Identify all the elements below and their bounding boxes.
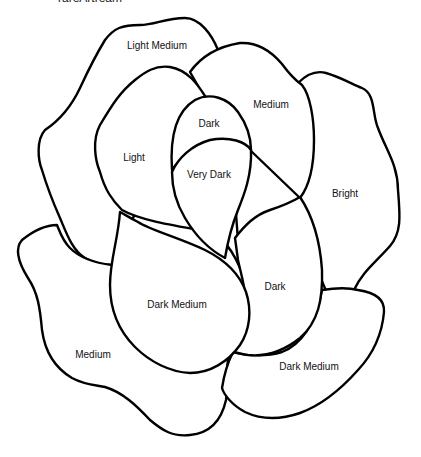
- label-dark-medium-lower: Dark Medium: [279, 361, 338, 372]
- label-dark-medium-center: Dark Medium: [147, 299, 206, 310]
- label-medium-top: Medium: [253, 99, 289, 110]
- label-light: Light: [123, 152, 145, 163]
- label-medium-lower: Medium: [75, 349, 111, 360]
- label-bright: Bright: [332, 188, 358, 199]
- label-very-dark: Very Dark: [187, 169, 232, 180]
- label-light-medium: Light Medium: [127, 40, 187, 51]
- rose-diagram: Light Medium Medium Dark Light Very Dark…: [0, 0, 421, 457]
- label-dark-inner: Dark: [198, 118, 220, 129]
- label-dark-right: Dark: [264, 281, 286, 292]
